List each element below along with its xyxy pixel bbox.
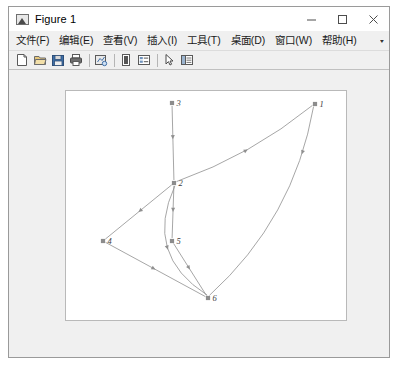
graph-node-label: 3 [176,98,181,108]
maximize-button[interactable] [327,7,358,31]
graph-node-label: 4 [108,236,113,246]
graph-edge-arrowhead [171,135,175,139]
graph-edge-arrowhead [171,208,175,212]
graph-edge [172,106,174,180]
graph-edge [209,107,313,296]
graph-edge-arrowhead [300,150,305,155]
menu-file[interactable]: 文件(F) [16,35,49,46]
graph-edge [177,105,313,181]
menu-tools[interactable]: 工具(T) [187,35,220,46]
new-figure-icon[interactable] [14,52,31,68]
print-figure-icon[interactable] [68,52,85,68]
close-button[interactable] [358,7,389,31]
menu-view[interactable]: 查看(V) [103,35,137,46]
graph-node[interactable] [313,102,317,106]
graph-node-label: 5 [177,236,181,246]
graph-node-label: 6 [213,293,218,303]
graph-node-label: 1 [320,99,324,109]
window-title: Figure 1 [35,13,76,25]
graph-node[interactable] [172,181,176,185]
menu-bar: 文件(F) 编辑(E) 查看(V) 插入(I) 工具(T) 桌面(D) 窗口(W… [9,31,389,50]
graph-edge-arrowhead [165,245,170,250]
graph-edge-arrowhead [186,265,192,271]
graph-edge-arrowhead [151,266,157,272]
graph-edge-arrowhead [243,148,249,154]
menu-overflow-chevron-down-icon[interactable]: ▾ [380,37,384,44]
insert-colorbar-icon[interactable] [118,52,135,68]
minimize-button[interactable] [296,7,327,31]
graph-node-layer [101,101,317,300]
link-plot-icon[interactable] [93,52,110,68]
graph-node-label: 2 [179,178,184,188]
graph-node[interactable] [170,239,174,243]
graph-node[interactable] [206,296,210,300]
open-file-icon[interactable] [32,52,49,68]
directed-graph-plot: 123456 [66,91,346,320]
toolbar-separator [89,54,90,67]
figure-window: Figure 1 文件(F) 编辑(E) 查看(V) 插入(I) 工具(T) 桌… [8,6,390,358]
graph-edge-layer [105,105,313,296]
matlab-figure-icon [16,13,29,26]
axes-panel[interactable]: 123456 [65,90,347,321]
toolbar-separator [157,54,158,67]
toolbar [9,50,389,70]
save-figure-icon[interactable] [50,52,67,68]
menu-desktop[interactable]: 桌面(D) [231,35,266,46]
title-bar: Figure 1 [9,7,389,31]
menu-help[interactable]: 帮助(H) [322,35,357,46]
menu-edit[interactable]: 编辑(E) [59,35,93,46]
figure-canvas: 123456 [9,70,389,357]
edit-plot-arrow-icon[interactable] [161,52,178,68]
menu-window[interactable]: 窗口(W) [275,35,312,46]
window-controls [296,7,389,31]
toolbar-separator [114,54,115,67]
graph-node[interactable] [101,239,105,243]
insert-legend-icon[interactable] [136,52,153,68]
graph-node[interactable] [170,101,174,105]
graph-label-layer: 123456 [108,98,324,303]
menu-insert[interactable]: 插入(I) [147,35,177,46]
show-plot-tools-icon[interactable] [179,52,196,68]
